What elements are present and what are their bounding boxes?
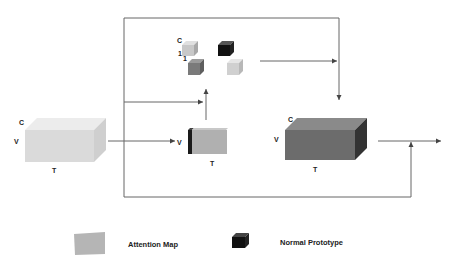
- prototype-one-label-b: 1: [183, 55, 187, 62]
- connection-lines: [108, 18, 441, 197]
- attention-map-block: [188, 128, 228, 154]
- prototype-dark: [218, 41, 234, 56]
- input-c-label: C: [19, 119, 24, 126]
- legend-normal-prototype-icon: [232, 233, 249, 248]
- prototype-one-label-a: 1: [178, 50, 182, 57]
- output-v-label: V: [274, 136, 279, 143]
- legend-normal-prototype-label: Normal Prototype: [280, 238, 343, 247]
- legend-attention-map-swatch: [74, 232, 105, 255]
- attention-v-label: V: [177, 139, 182, 146]
- input-v-label: V: [14, 138, 19, 145]
- prototype-light: [182, 41, 198, 56]
- diagram-canvas: [0, 0, 459, 265]
- output-t-label: T: [313, 166, 317, 173]
- output-tensor-block: [285, 118, 367, 160]
- output-c-label: C: [288, 116, 293, 123]
- input-tensor-block: [25, 118, 106, 162]
- input-t-label: T: [52, 167, 56, 174]
- prototype-c-label: C: [177, 37, 182, 44]
- prototype-mid: [188, 59, 204, 75]
- prototype-pale: [227, 59, 243, 75]
- attention-t-label: T: [210, 160, 214, 167]
- legend-attention-map-label: Attention Map: [128, 240, 178, 249]
- residual-line: [124, 142, 411, 197]
